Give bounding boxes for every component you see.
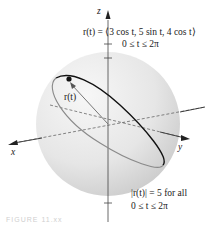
y-axis-label: y [178, 142, 182, 153]
z-axis-arrow-icon [106, 10, 111, 19]
equation-line1: r(t) = ⟨3 cos t, 5 sin t, 4 cos t⟩ [83, 27, 196, 38]
x-axis-arrow-icon [8, 140, 18, 145]
equation-line2: 0 ≤ t ≤ 2π [122, 39, 159, 50]
point-marker [66, 76, 71, 81]
x-axis-label: x [11, 147, 15, 158]
magnitude-line1: |r(t)| = 5 for all [131, 188, 187, 199]
z-axis-label: z [97, 6, 101, 17]
magnitude-line2: 0 ≤ t ≤ 2π [131, 201, 168, 212]
y-axis-arrow-icon [181, 135, 190, 141]
figure-caption: FIGURE 11.xx [6, 216, 63, 223]
vector-label: r(t) [64, 92, 76, 103]
